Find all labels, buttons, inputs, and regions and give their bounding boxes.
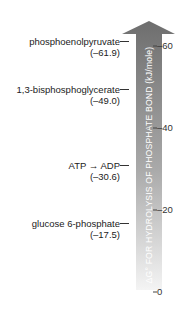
tick-20: –20: [157, 205, 173, 215]
item-name: ATP → ADP: [69, 160, 120, 171]
marker-bisphosphoglycerate: [120, 89, 129, 90]
marker-glucose-6-phosphate: [120, 223, 129, 224]
item-atp-adp: ATP → ADP (–30.6): [69, 160, 120, 182]
tick-0: 0: [157, 287, 162, 297]
item-value: (–30.6): [69, 171, 120, 182]
item-bisphosphoglycerate: 1,3-bisphosphoglycerate (–49.0): [16, 84, 120, 106]
marker-phosphoenolpyruvate: [120, 41, 129, 42]
tick-60: –60: [157, 41, 173, 51]
item-value: (–17.5): [32, 229, 120, 240]
marker-atp-adp: [120, 165, 129, 166]
item-name: glucose 6-phosphate: [32, 218, 120, 229]
item-glucose-6-phosphate: glucose 6-phosphate (–17.5): [32, 218, 120, 240]
tick-40: –40: [157, 123, 173, 133]
axis-title: ΔG° FOR HYDROLYSIS OF PHOSPHATE BOND (kJ…: [144, 47, 154, 284]
item-value: (–49.0): [16, 95, 120, 106]
item-name: 1,3-bisphosphoglycerate: [16, 84, 120, 95]
item-name: phosphoenolpyruvate: [29, 36, 120, 47]
item-value: (–61.9): [29, 47, 120, 58]
item-phosphoenolpyruvate: phosphoenolpyruvate (–61.9): [29, 36, 120, 58]
